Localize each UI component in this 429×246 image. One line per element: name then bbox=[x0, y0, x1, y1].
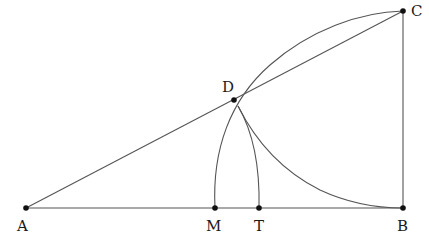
label-B: B bbox=[397, 219, 408, 234]
point-M bbox=[212, 205, 218, 211]
point-D bbox=[231, 97, 237, 103]
point-C bbox=[400, 8, 406, 14]
label-C: C bbox=[411, 4, 422, 19]
diagram-svg bbox=[0, 0, 429, 246]
point-T bbox=[256, 205, 262, 211]
label-M: M bbox=[206, 219, 221, 234]
label-D: D bbox=[222, 80, 234, 95]
point-A bbox=[23, 205, 29, 211]
arc-D-to-B bbox=[238, 106, 403, 208]
arc-M-to-C bbox=[215, 11, 403, 208]
label-A: A bbox=[17, 219, 28, 234]
geometry-diagram: A M T B C D bbox=[0, 0, 429, 246]
point-B bbox=[400, 205, 406, 211]
segment-AC bbox=[26, 11, 403, 208]
arc-T-to-D bbox=[238, 106, 259, 208]
label-T: T bbox=[254, 219, 264, 234]
